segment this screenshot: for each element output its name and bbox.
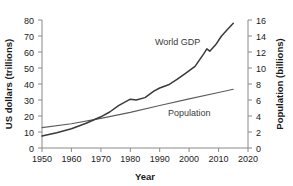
y-right-label-8: 8 <box>256 80 261 90</box>
y-left-axis-title: US dollars (trillions) <box>3 39 14 129</box>
y-right-label-12: 12 <box>256 48 266 58</box>
world-gdp-line <box>42 23 233 136</box>
x-label-1950: 1950 <box>32 154 52 164</box>
y-left-ticks <box>38 20 42 148</box>
y-right-label-16: 16 <box>256 16 266 26</box>
y-left-label-10: 10 <box>24 128 34 138</box>
x-label-1980: 1980 <box>120 154 140 164</box>
y-left-label-0: 0 <box>29 144 34 154</box>
x-label-2000: 2000 <box>179 154 199 164</box>
x-tick-labels: 1950 1960 1970 1980 1990 2000 2010 2020 <box>32 154 258 164</box>
y-right-label-4: 4 <box>256 112 261 122</box>
x-ticks <box>42 148 248 152</box>
y-right-label-10: 10 <box>256 64 266 74</box>
x-label-1990: 1990 <box>150 154 170 164</box>
y-left-label-40: 40 <box>24 80 34 90</box>
y-right-tick-labels: 16 14 12 10 8 6 4 2 0 <box>256 16 266 154</box>
chart-container: 80 70 60 50 40 30 20 10 0 16 14 12 10 <box>0 0 293 186</box>
population-series-label: Population <box>168 108 211 118</box>
y-left-label-60: 60 <box>24 48 34 58</box>
y-left-label-70: 70 <box>24 32 34 42</box>
world-gdp-series-label: World GDP <box>155 37 200 47</box>
y-right-label-0: 0 <box>256 144 261 154</box>
y-left-label-50: 50 <box>24 64 34 74</box>
y-right-label-2: 2 <box>256 128 261 138</box>
x-label-2010: 2010 <box>209 154 229 164</box>
x-label-2020: 2020 <box>238 154 258 164</box>
y-right-label-14: 14 <box>256 32 266 42</box>
y-left-label-20: 20 <box>24 112 34 122</box>
x-axis-title: Year <box>135 171 155 182</box>
y-left-label-30: 30 <box>24 96 34 106</box>
y-right-ticks <box>248 20 252 148</box>
y-left-label-80: 80 <box>24 16 34 26</box>
y-right-axis-title: Population (billions) <box>274 38 285 129</box>
y-left-tick-labels: 80 70 60 50 40 30 20 10 0 <box>24 16 34 154</box>
x-label-1960: 1960 <box>61 154 81 164</box>
dual-axis-line-chart: 80 70 60 50 40 30 20 10 0 16 14 12 10 <box>0 0 293 186</box>
data-series <box>42 23 233 136</box>
x-label-1970: 1970 <box>91 154 111 164</box>
y-right-label-6: 6 <box>256 96 261 106</box>
